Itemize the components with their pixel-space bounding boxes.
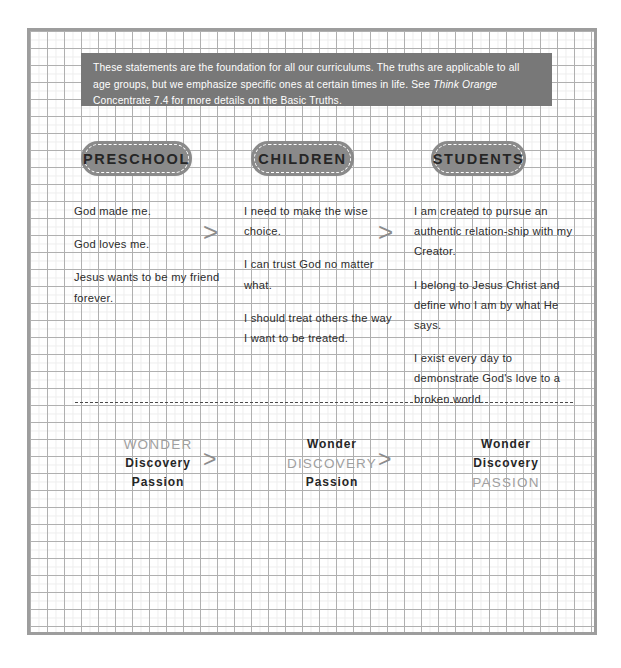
statement-item: God loves me. [74, 234, 224, 254]
triad-preschool: WONDER Discovery Passion [78, 435, 238, 492]
chevron-right-icon: > [203, 219, 218, 245]
triad-word-emphasized: PASSION [426, 473, 586, 492]
pill-students-label: STUDENTS [433, 151, 525, 167]
pill-children-label: CHILDREN [258, 151, 347, 167]
statements-column-students: I am created to pursue an authentic rela… [414, 201, 574, 409]
section-divider [75, 402, 573, 403]
triad-children: Wonder DISCOVERY Passion [252, 435, 412, 492]
pill-students: STUDENTS [431, 141, 526, 176]
intro-italic-title: Think Orange [433, 79, 497, 90]
statement-item: I am created to pursue an authentic rela… [414, 201, 574, 262]
statements-column-preschool: God made me. God loves me. Jesus wants t… [74, 201, 224, 308]
triad-word: Wonder [426, 435, 586, 454]
triad-word: Passion [78, 473, 238, 492]
statement-item: God made me. [74, 201, 224, 221]
triad-word: Discovery [426, 454, 586, 473]
chevron-right-icon: > [378, 219, 393, 245]
triad-word-emphasized: DISCOVERY [252, 454, 412, 473]
statement-item: I should treat others the way I want to … [244, 308, 394, 348]
statement-item: Jesus wants to be my friend forever. [74, 267, 224, 307]
statement-item: I belong to Jesus Christ and define who … [414, 275, 574, 336]
triad-word-emphasized: WONDER [78, 435, 238, 454]
intro-text-part-2: Concentrate 7.4 for more details on the … [93, 95, 342, 106]
pill-preschool-label: PRESCHOOL [83, 151, 190, 167]
pill-children: CHILDREN [251, 141, 354, 176]
graph-paper-page: These statements are the foundation for … [27, 28, 597, 635]
triad-word: Passion [252, 473, 412, 492]
pill-preschool: PRESCHOOL [81, 141, 192, 176]
statements-column-children: I need to make the wise choice. I can tr… [244, 201, 394, 348]
statement-item: I exist every day to demonstrate God's l… [414, 348, 574, 409]
statement-item: I can trust God no matter what. [244, 254, 394, 294]
triad-word: Wonder [252, 435, 412, 454]
intro-callout: These statements are the foundation for … [81, 53, 552, 106]
triad-word: Discovery [78, 454, 238, 473]
triad-students: Wonder Discovery PASSION [426, 435, 586, 492]
statement-item: I need to make the wise choice. [244, 201, 394, 241]
